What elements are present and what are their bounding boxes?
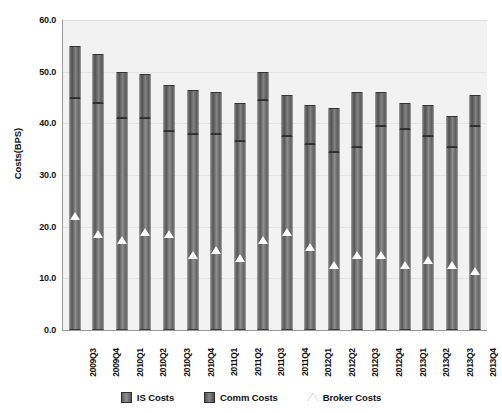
y-axis-title: Costs(BPS)	[12, 111, 23, 197]
bar-segment-comm-costs[interactable]	[470, 95, 481, 126]
bar-segment-is-costs[interactable]	[470, 126, 481, 330]
chart-figure: 60.050.040.030.020.010.00.0 Costs(BPS) 2…	[0, 0, 502, 413]
x-axis-tick-label: 2011Q2	[253, 348, 263, 376]
broker-costs-marker[interactable]	[235, 254, 245, 262]
broker-costs-marker[interactable]	[305, 243, 315, 251]
broker-costs-marker[interactable]	[140, 228, 150, 236]
bar-group[interactable]	[299, 20, 323, 330]
broker-costs-marker[interactable]	[376, 251, 386, 259]
bar-segment-is-costs[interactable]	[352, 147, 363, 330]
broker-costs-marker[interactable]	[117, 236, 127, 244]
bar-segment-comm-costs[interactable]	[375, 92, 386, 126]
bar-segment-is-costs[interactable]	[328, 152, 339, 330]
bar-segment-comm-costs[interactable]	[258, 72, 269, 100]
bar-segment-comm-costs[interactable]	[211, 92, 222, 133]
legend-item[interactable]: IS Costs	[121, 392, 174, 403]
broker-costs-marker[interactable]	[470, 267, 480, 275]
bar-group[interactable]	[157, 20, 181, 330]
x-axis: 2009Q32009Q42010Q12010Q22010Q32010Q42011…	[62, 332, 486, 386]
bar-group[interactable]	[110, 20, 134, 330]
bar-segment-is-costs[interactable]	[375, 126, 386, 330]
bar-group[interactable]	[275, 20, 299, 330]
bar-segment-comm-costs[interactable]	[281, 95, 292, 136]
bar-group[interactable]	[393, 20, 417, 330]
bar-segment-is-costs[interactable]	[140, 118, 151, 330]
bar-segment-comm-costs[interactable]	[446, 116, 457, 147]
bar-segment-is-costs[interactable]	[423, 136, 434, 330]
bar-group[interactable]	[346, 20, 370, 330]
triangle-marker-icon	[308, 393, 318, 401]
y-axis-tick-label: 30.0	[39, 170, 56, 180]
broker-costs-marker[interactable]	[93, 230, 103, 238]
bar-group[interactable]	[204, 20, 228, 330]
bar-segment-is-costs[interactable]	[93, 103, 104, 330]
bar-segment-comm-costs[interactable]	[187, 90, 198, 134]
broker-costs-marker[interactable]	[423, 256, 433, 264]
bar-group[interactable]	[322, 20, 346, 330]
bar-segment-is-costs[interactable]	[446, 147, 457, 330]
x-axis-tick-label: 2013Q2	[441, 348, 451, 376]
x-axis-tick-label: 2012Q1	[324, 348, 334, 376]
broker-costs-marker[interactable]	[258, 236, 268, 244]
broker-costs-marker[interactable]	[329, 261, 339, 269]
y-axis-tick-label: 20.0	[39, 222, 56, 232]
x-axis-tick-label: 2011Q3	[276, 348, 286, 376]
x-axis-tick-label: 2010Q2	[159, 348, 169, 376]
y-axis-tick-label: 40.0	[39, 118, 56, 128]
legend-label: IS Costs	[137, 392, 174, 403]
x-axis-tick-label: 2011Q1	[229, 348, 239, 376]
legend-item[interactable]: Comm Costs	[204, 392, 278, 403]
x-axis-tick-label: 2013Q3	[465, 348, 475, 376]
x-axis-tick-label: 2010Q3	[182, 348, 192, 376]
bar-series-container	[63, 20, 487, 330]
bar-segment-is-costs[interactable]	[116, 118, 127, 330]
bar-segment-comm-costs[interactable]	[328, 108, 339, 152]
bar-group[interactable]	[369, 20, 393, 330]
bar-segment-is-costs[interactable]	[399, 129, 410, 331]
legend-item[interactable]: Broker Costs	[308, 392, 381, 403]
x-axis-tick-label: 2012Q3	[371, 348, 381, 376]
plot-area	[62, 20, 487, 331]
bar-group[interactable]	[228, 20, 252, 330]
y-axis-tick-label: 60.0	[39, 15, 56, 25]
broker-costs-marker[interactable]	[70, 212, 80, 220]
bar-segment-is-costs[interactable]	[234, 141, 245, 330]
bar-segment-comm-costs[interactable]	[423, 105, 434, 136]
bar-segment-comm-costs[interactable]	[69, 46, 80, 98]
legend-label: Broker Costs	[323, 392, 381, 403]
bar-segment-comm-costs[interactable]	[399, 103, 410, 129]
caption-strip	[0, 406, 502, 413]
bar-segment-comm-costs[interactable]	[352, 92, 363, 146]
y-axis: 60.050.040.030.020.010.00.0	[0, 0, 60, 340]
bar-segment-comm-costs[interactable]	[234, 103, 245, 142]
x-axis-tick-label: 2010Q4	[206, 348, 216, 376]
bar-segment-is-costs[interactable]	[305, 144, 316, 330]
broker-costs-marker[interactable]	[352, 251, 362, 259]
bar-group[interactable]	[463, 20, 487, 330]
broker-costs-marker[interactable]	[400, 261, 410, 269]
bar-segment-is-costs[interactable]	[187, 134, 198, 330]
bar-segment-comm-costs[interactable]	[93, 54, 104, 103]
broker-costs-marker[interactable]	[211, 246, 221, 254]
bar-segment-comm-costs[interactable]	[116, 72, 127, 119]
bar-segment-is-costs[interactable]	[258, 100, 269, 330]
broker-costs-marker[interactable]	[447, 261, 457, 269]
bar-segment-comm-costs[interactable]	[140, 74, 151, 118]
broker-costs-marker[interactable]	[188, 251, 198, 259]
broker-costs-marker[interactable]	[164, 230, 174, 238]
bar-group[interactable]	[251, 20, 275, 330]
y-axis-tick-label: 10.0	[39, 273, 56, 283]
bar-group[interactable]	[87, 20, 111, 330]
chart-legend: IS CostsComm CostsBroker Costs	[0, 388, 502, 406]
x-axis-tick-label: 2010Q1	[135, 348, 145, 376]
bar-group[interactable]	[63, 20, 87, 330]
bar-segment-comm-costs[interactable]	[305, 105, 316, 144]
bar-group[interactable]	[134, 20, 158, 330]
bar-group[interactable]	[181, 20, 205, 330]
broker-costs-marker[interactable]	[282, 228, 292, 236]
bar-segment-is-costs[interactable]	[211, 134, 222, 330]
bar-group[interactable]	[416, 20, 440, 330]
bar-segment-comm-costs[interactable]	[163, 85, 174, 132]
y-axis-tick-label: 0.0	[44, 325, 56, 335]
bar-group[interactable]	[440, 20, 464, 330]
